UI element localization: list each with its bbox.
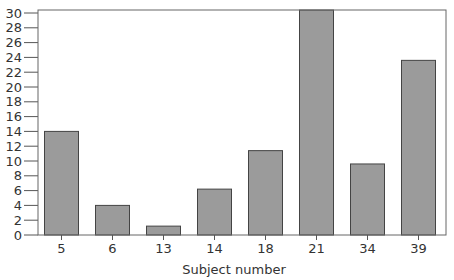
x-tick-label: 6 — [108, 241, 116, 256]
y-tick-label: 4 — [14, 198, 22, 213]
bar-6 — [96, 205, 130, 235]
y-tick-label: 10 — [5, 154, 22, 169]
y-tick-label: 28 — [5, 20, 22, 35]
y-axis: 024681012141618202224262830 — [5, 6, 38, 243]
bar-39 — [402, 60, 436, 235]
y-tick-label: 24 — [5, 50, 22, 65]
x-tick-label: 39 — [410, 241, 427, 256]
x-tick-label: 34 — [359, 241, 376, 256]
bars — [45, 10, 436, 235]
bar-34 — [351, 164, 385, 235]
y-tick-label: 0 — [14, 228, 22, 243]
bar-18 — [249, 151, 283, 235]
x-tick-label: 5 — [57, 241, 65, 256]
x-tick-label: 21 — [308, 241, 325, 256]
y-tick-label: 2 — [14, 213, 22, 228]
x-tick-label: 18 — [257, 241, 274, 256]
y-tick-label: 16 — [5, 109, 22, 124]
y-tick-label: 14 — [5, 124, 22, 139]
bar-chart: 024681012141618202224262830 561314182134… — [0, 0, 454, 280]
x-tick-label: 14 — [206, 241, 223, 256]
x-axis: 56131418213439 — [57, 235, 426, 256]
bar-21 — [300, 10, 334, 235]
y-tick-label: 26 — [5, 35, 22, 50]
y-tick-label: 6 — [14, 183, 22, 198]
y-tick-label: 30 — [5, 6, 22, 21]
y-tick-label: 8 — [14, 168, 22, 183]
y-tick-label: 22 — [5, 65, 22, 80]
bar-14 — [198, 189, 232, 235]
y-tick-label: 20 — [5, 80, 22, 95]
y-tick-label: 12 — [5, 139, 22, 154]
bar-13 — [147, 226, 181, 235]
y-tick-label: 18 — [5, 94, 22, 109]
bar-5 — [45, 131, 79, 235]
x-axis-title: Subject number — [182, 262, 286, 277]
x-tick-label: 13 — [155, 241, 172, 256]
